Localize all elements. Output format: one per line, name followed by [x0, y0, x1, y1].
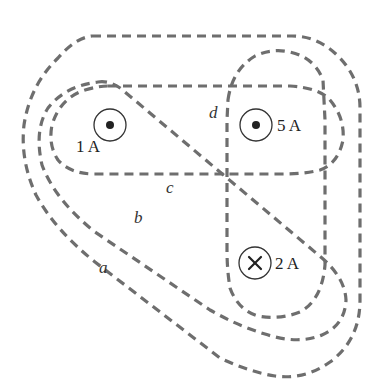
wire-2a — [239, 247, 271, 279]
current-label-1a: 1 A — [76, 138, 100, 155]
loop-label-b: b — [134, 209, 143, 226]
loop-label-d: d — [209, 104, 218, 121]
dot-out-of-page-icon — [252, 121, 260, 129]
amperian-loops-diagram — [0, 0, 380, 390]
loop-label-a: a — [99, 259, 108, 276]
current-label-5a: 5 A — [277, 117, 301, 134]
current-label-2a: 2 A — [275, 255, 299, 272]
loop-label-c: c — [166, 179, 174, 196]
wire-5a — [240, 109, 272, 141]
dot-out-of-page-icon — [106, 121, 114, 129]
